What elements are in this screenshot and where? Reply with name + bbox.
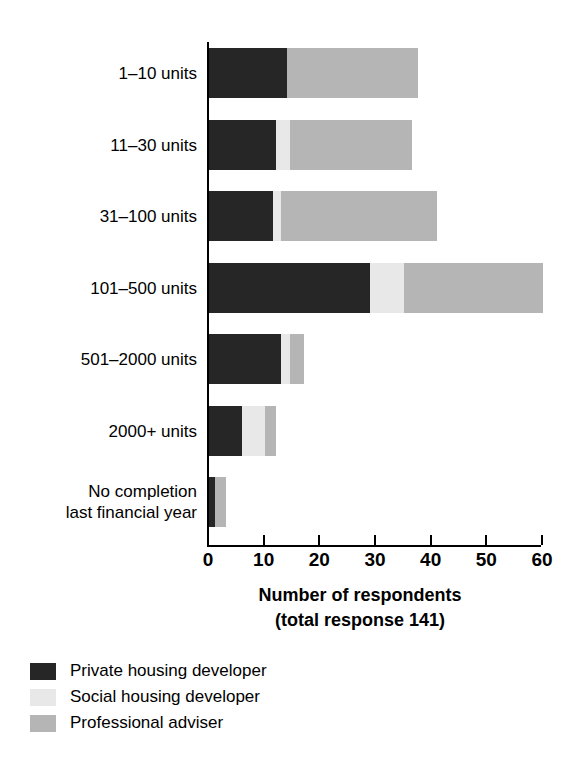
bar-segment — [215, 477, 226, 527]
stacked-bar — [209, 263, 543, 313]
legend-swatch-icon — [30, 715, 56, 732]
bar-segment — [242, 406, 264, 456]
x-axis-tick-label: 40 — [420, 549, 441, 571]
x-axis-tick-label: 60 — [531, 549, 552, 571]
legend-swatch-icon — [30, 689, 56, 706]
chart-legend: Private housing developerSocial housing … — [30, 658, 267, 736]
x-axis-tick-label: 20 — [309, 549, 330, 571]
bar-segment — [281, 334, 289, 384]
x-axis-tick-label: 30 — [364, 549, 385, 571]
stacked-bar — [209, 334, 304, 384]
stacked-bar — [209, 477, 226, 527]
x-axis-tick-label: 50 — [476, 549, 497, 571]
bar-segment — [209, 263, 370, 313]
stacked-bar — [209, 120, 412, 170]
bar-segment — [209, 191, 273, 241]
x-axis-tick — [374, 535, 376, 545]
category-label: 2000+ units — [7, 420, 197, 441]
category-label: No completion last financial year — [7, 481, 197, 523]
legend-swatch-icon — [30, 663, 56, 680]
legend-label: Private housing developer — [70, 660, 267, 682]
bar-segment — [276, 120, 290, 170]
bar-segment — [209, 48, 287, 98]
legend-label: Social housing developer — [70, 686, 260, 708]
bar-segment — [265, 406, 276, 456]
x-axis-tick — [430, 535, 432, 545]
x-axis-title: Number of respondents (total response 14… — [150, 583, 570, 633]
stacked-bar — [209, 191, 437, 241]
bar-segment — [404, 263, 543, 313]
x-axis-tick — [207, 535, 209, 545]
legend-item: Professional adviser — [30, 710, 267, 736]
bar-segment — [370, 263, 403, 313]
x-axis-tick — [541, 535, 543, 545]
x-axis-tick-label: 10 — [253, 549, 274, 571]
x-axis-tick — [263, 535, 265, 545]
category-label: 11–30 units — [7, 134, 197, 155]
bar-segment — [273, 191, 281, 241]
bar-segment — [209, 406, 242, 456]
stacked-bar — [209, 48, 418, 98]
bar-segment — [209, 120, 276, 170]
x-axis-tick — [485, 535, 487, 545]
bar-chart: Size band 1–10 units11–30 units31–100 un… — [0, 0, 576, 764]
legend-item: Private housing developer — [30, 658, 267, 684]
x-axis-ticks: 0102030405060 — [207, 545, 547, 585]
bar-segment — [209, 334, 281, 384]
plot-area: 1–10 units11–30 units31–100 units101–500… — [207, 42, 547, 545]
bar-segment — [281, 191, 437, 241]
x-axis-title-line2: (total response 141) — [150, 608, 570, 633]
category-label: 501–2000 units — [7, 349, 197, 370]
bar-segment — [290, 334, 304, 384]
x-axis-tick-label: 0 — [203, 549, 214, 571]
category-label: 1–10 units — [7, 63, 197, 84]
x-axis-title-line1: Number of respondents — [150, 583, 570, 608]
bar-segment — [290, 120, 412, 170]
category-label: 101–500 units — [7, 277, 197, 298]
category-label: 31–100 units — [7, 206, 197, 227]
stacked-bar — [209, 406, 276, 456]
legend-item: Social housing developer — [30, 684, 267, 710]
bar-segment — [287, 48, 418, 98]
x-axis-tick — [318, 535, 320, 545]
legend-label: Professional adviser — [70, 712, 223, 734]
